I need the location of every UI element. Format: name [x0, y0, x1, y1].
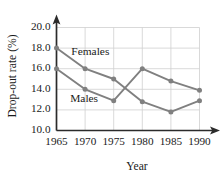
- chart-container: 10.012.014.016.018.020.0 196519701975198…: [0, 0, 223, 177]
- data-point-males-1985: [168, 79, 173, 84]
- y-tick-label: 12.0: [31, 102, 51, 114]
- data-point-females-1985: [168, 109, 173, 114]
- series-label-males: Males: [70, 92, 98, 104]
- data-point-females-1975: [111, 77, 116, 82]
- series-label-females: Females: [71, 45, 110, 57]
- x-tick-label: 1975: [103, 135, 126, 147]
- data-point-males-1990: [197, 88, 202, 93]
- dropout-rate-line-chart: 10.012.014.016.018.020.0 196519701975198…: [0, 0, 223, 177]
- data-point-females-1970: [83, 66, 88, 71]
- y-tick-label: 16.0: [31, 61, 51, 73]
- data-point-females-1965: [54, 46, 59, 51]
- data-point-males-1975: [111, 98, 116, 103]
- x-tick-label: 1980: [131, 135, 154, 147]
- x-tick-label: 1970: [74, 135, 97, 147]
- y-tick-label: 10.0: [31, 123, 51, 135]
- data-point-males-1980: [140, 66, 145, 71]
- y-axis-title: Drop-out rate (%): [6, 34, 19, 117]
- data-point-males-1965: [54, 66, 59, 71]
- x-axis-title: Year: [126, 160, 148, 173]
- data-point-females-1980: [140, 99, 145, 104]
- y-tick-label: 20.0: [31, 20, 51, 32]
- data-point-females-1990: [197, 98, 202, 103]
- x-tick-label: 1990: [188, 135, 211, 147]
- y-tick-label: 14.0: [31, 82, 51, 94]
- x-tick-label: 1985: [160, 135, 183, 147]
- y-tick-label: 18.0: [31, 41, 51, 53]
- x-tick-label: 1965: [45, 135, 68, 147]
